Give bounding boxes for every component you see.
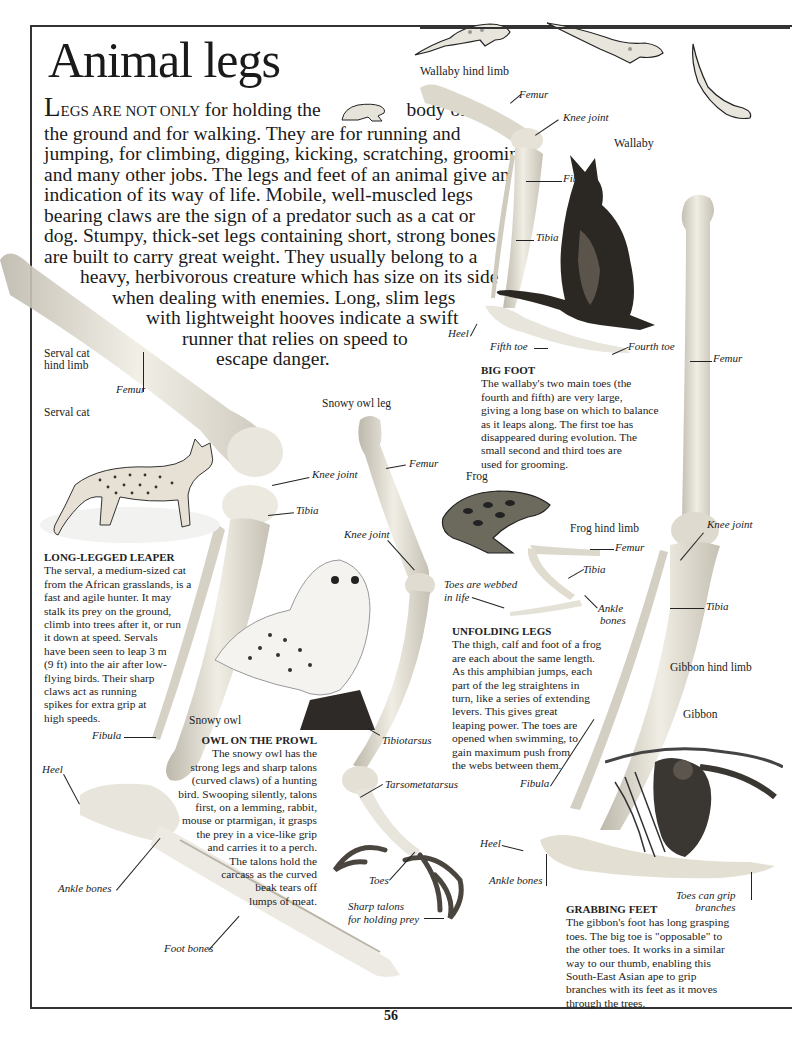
- serval-fibula-label: Fibula: [92, 729, 121, 741]
- frog-ankle-label: Ankle bones: [598, 602, 626, 626]
- wallaby-femur-label: Femur: [519, 88, 548, 100]
- serval-cat-illustration: [40, 425, 225, 545]
- gibbon-knee-label: Knee joint: [707, 518, 753, 530]
- owl-talons-leader: [424, 918, 444, 919]
- gibbon-limb-title: Gibbon hind limb: [670, 661, 752, 673]
- snowy-owl-illustration: [210, 540, 380, 730]
- leaping-frog-illustration-3-icon: [688, 42, 758, 122]
- gibbon-toes-leader: [751, 872, 752, 900]
- frog-animal-label: Frog: [466, 470, 488, 482]
- serval-limb-title: Serval cat hind limb: [44, 347, 90, 371]
- frog-caption: UNFOLDING LEGS The thigh, calf and foot …: [452, 625, 601, 772]
- serval-fibula-leader: [124, 737, 156, 738]
- owl-toes-label: Toes: [369, 874, 389, 886]
- gibbon-ankle-label: Ankle bones: [489, 874, 542, 886]
- gibbon-tibia-leader: [670, 608, 704, 609]
- serval-ankle-label: Ankle bones: [58, 882, 111, 894]
- wallaby-limb-title: Wallaby hind limb: [420, 64, 509, 79]
- owl-knee-label: Knee joint: [344, 528, 390, 540]
- serval-heel-label: Heel: [42, 763, 63, 775]
- owl-talons-label: Sharp talons for holding prey: [348, 900, 419, 926]
- leaping-frog-illustration-1-icon: [410, 10, 520, 60]
- wallaby-heel-label: Heel: [448, 327, 469, 339]
- drop-cap: L: [44, 92, 61, 122]
- frog-inline-icon: [338, 100, 390, 124]
- owl-caption-heading: OWL ON THE PROWL: [162, 734, 317, 747]
- frog-caption-heading: UNFOLDING LEGS: [452, 625, 601, 638]
- gibbon-tibia-label: Tibia: [706, 600, 729, 612]
- serval-tibia-label: Tibia: [296, 504, 319, 516]
- serval-foot-label: Foot bones: [164, 942, 213, 954]
- serval-animal-label: Serval cat: [44, 406, 90, 418]
- page-title: Animal legs: [48, 30, 280, 90]
- wallaby-knee-label: Knee joint: [563, 111, 609, 123]
- owl-limb-title: Snowy owl leg: [322, 397, 391, 409]
- owl-tarsometatarsus-label: Tarsometatarsus: [385, 778, 458, 790]
- frog-tibia-label: Tibia: [583, 563, 606, 575]
- gibbon-illustration: [605, 722, 783, 862]
- frog-femur-leader: [590, 549, 614, 550]
- owl-caption: OWL ON THE PROWL The snowy owl has the s…: [162, 734, 317, 908]
- serval-caption-heading: LONG-LEGGED LEAPER: [44, 551, 191, 564]
- owl-tibiotarsus-label: Tibiotarsus: [382, 734, 432, 746]
- owl-animal-label: Snowy owl: [189, 714, 241, 726]
- serval-femur-label: Femur: [116, 383, 145, 395]
- leaping-frog-illustration-2-icon: [545, 15, 670, 65]
- gibbon-femur-leader: [690, 361, 712, 362]
- serval-caption: LONG-LEGGED LEAPER The serval, a medium-…: [44, 551, 191, 725]
- gibbon-femur-label: Femur: [713, 352, 742, 364]
- gibbon-caption: GRABBING FEET The gibbon's foot has long…: [566, 903, 729, 1010]
- gibbon-caption-heading: GRABBING FEET: [566, 903, 729, 916]
- gibbon-ankle-leader: [546, 854, 547, 886]
- frog-femur-label: Femur: [615, 541, 644, 553]
- owl-femur-label: Femur: [409, 457, 438, 469]
- gibbon-heel-label: Heel: [480, 837, 501, 849]
- wallaby-animal-label: Wallaby: [614, 136, 654, 151]
- gibbon-animal-label: Gibbon: [683, 708, 718, 720]
- header-rule: [420, 27, 790, 29]
- page-number: 56: [384, 1008, 398, 1024]
- gibbon-fibula-label: Fibula: [520, 777, 549, 789]
- frog-limb-title: Frog hind limb: [570, 522, 639, 534]
